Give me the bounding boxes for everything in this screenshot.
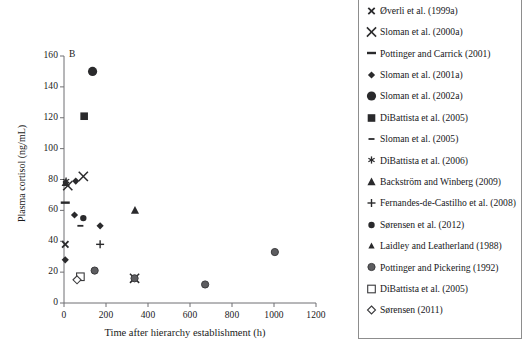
marker-diamond-open [368, 306, 376, 314]
data-point [96, 240, 104, 248]
marker-circle-filled [368, 221, 374, 227]
legend-item: Sloman et al. (2002a) [359, 86, 521, 107]
marker-x-large-icon [363, 24, 380, 40]
marker-triangle-filled [367, 177, 375, 185]
legend-item: Backström and Winberg (2009) [359, 171, 521, 192]
marker-diamond-open-icon [363, 302, 380, 318]
legend-item-label: Sloman et al. (2000a) [380, 27, 463, 37]
legend-item: Laidley and Leatherland (1988) [359, 235, 521, 256]
marker-x-small-icon [363, 3, 380, 19]
data-point [131, 275, 138, 282]
legend-item: Pottinger and Pickering (1992) [359, 257, 521, 278]
legend-item: Øverli et al. (1999a) [359, 0, 521, 21]
legend-item-label: DiBattista et al. (2006) [380, 156, 468, 166]
legend-item-label: Laidley and Leatherland (1988) [380, 241, 502, 251]
legend-item: Sørensen (2011) [359, 299, 521, 320]
x-axis-title: Time after hierarchy establishment (h) [40, 327, 330, 338]
legend-item: Fernandes-de-Castilho et al. (2008) [359, 193, 521, 214]
legend-item-label: DiBattista et al. (2005) [380, 113, 468, 123]
data-point [91, 267, 98, 274]
data-point [97, 222, 104, 229]
y-tick-label: 160 [14, 50, 58, 60]
legend-item: DiBattista et al. (2006) [359, 150, 521, 171]
data-point [62, 256, 69, 263]
marker-x-large [367, 27, 376, 36]
marker-dash-thick-icon [363, 45, 380, 61]
marker-plus [368, 199, 376, 207]
legend-item-label: DiBattista et al. (2005) [380, 284, 468, 294]
legend-item-label: Sloman et al. (2001a) [380, 70, 463, 80]
marker-circle-grey [368, 264, 375, 271]
data-point [79, 172, 88, 181]
legend-list: Øverli et al. (1999a)Sloman et al. (2000… [359, 0, 521, 321]
marker-dash-small-icon [363, 131, 380, 147]
legend-item-label: Sørensen et al. (2012) [380, 220, 464, 230]
legend-item: Sloman et al. (2001a) [359, 64, 521, 85]
marker-circle-grey-icon [363, 259, 380, 275]
marker-square-open [368, 285, 376, 293]
legend-item: Sloman et al. (2000a) [359, 21, 521, 42]
marker-circle-filled-icon [363, 217, 380, 233]
data-point [271, 248, 278, 255]
marker-asterisk [368, 157, 374, 164]
data-point [80, 215, 86, 221]
legend-item: Sørensen et al. (2012) [359, 214, 521, 235]
legend-item: Sloman et al. (2005) [359, 128, 521, 149]
marker-diamond-filled-icon [363, 67, 380, 83]
legend-item-label: Sloman et al. (2005) [380, 134, 458, 144]
x-tick-label: 1200 [291, 310, 341, 320]
data-point [71, 211, 78, 218]
scatter-chart-panel: 020406080100120140160 020040060080010001… [0, 0, 352, 358]
marker-plus-icon [363, 195, 380, 211]
marker-triangle-small-icon [363, 238, 380, 254]
legend-item-label: Backström and Winberg (2009) [380, 177, 501, 187]
y-tick-label: 140 [14, 81, 58, 91]
legend-item-label: Øverli et al. (1999a) [380, 6, 458, 16]
data-point [202, 281, 209, 288]
marker-triangle-filled-icon [363, 174, 380, 190]
data-point [72, 177, 79, 184]
data-points-group [61, 67, 279, 288]
legend-item-label: Fernandes-de-Castilho et al. (2008) [380, 198, 516, 208]
legend-item-label: Pottinger and Carrick (2001) [380, 49, 491, 59]
data-point [88, 67, 97, 76]
legend-item-label: Pottinger and Pickering (1992) [380, 263, 499, 273]
marker-square-filled [368, 114, 376, 122]
marker-circle-large-filled-icon [363, 88, 380, 104]
legend-item: DiBattista et al. (2005) [359, 278, 521, 299]
y-tick-label: 20 [14, 266, 58, 276]
data-point [131, 206, 139, 214]
panel-letter: B [69, 49, 75, 59]
legend-item-label: Sørensen (2011) [380, 305, 443, 315]
marker-x-small [368, 7, 374, 13]
marker-square-filled-icon [363, 110, 380, 126]
marker-triangle-small [368, 243, 374, 249]
legend-item-label: Sloman et al. (2002a) [380, 91, 463, 101]
marker-asterisk-icon [363, 152, 380, 168]
figure-root: 020406080100120140160 020040060080010001… [0, 0, 529, 358]
legend-box: Øverli et al. (1999a)Sloman et al. (2000… [358, 0, 522, 339]
y-axis-title: Plasma cortisol (ng/mL) [16, 99, 27, 249]
legend-item: DiBattista et al. (2005) [359, 107, 521, 128]
marker-circle-large-filled [367, 92, 376, 101]
data-point [62, 241, 68, 247]
marker-square-open-icon [363, 281, 380, 297]
marker-diamond-filled [368, 71, 375, 78]
legend-item: Pottinger and Carrick (2001) [359, 43, 521, 64]
y-tick-label: 0 [14, 297, 58, 307]
data-point [80, 112, 88, 120]
